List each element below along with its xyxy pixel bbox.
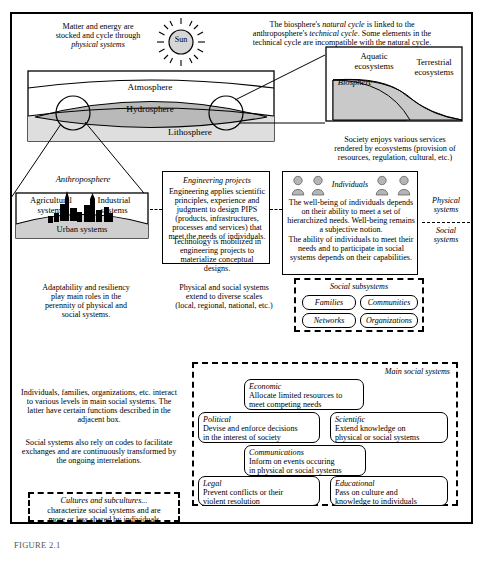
label-hydrosphere: Hydrosphere [105, 104, 195, 114]
note-ecosystem-services: Society enjoys various services rendered… [320, 135, 470, 162]
system-communications-name: Communications [249, 448, 304, 457]
physical-systems-graphic: Atmosphere Hydrosphere Lithosphere [27, 70, 275, 145]
label-anthroposphere: Anthroposphere [38, 175, 128, 185]
system-political: Political Devise and enforce decisions i… [198, 412, 320, 443]
note-interactions: Individuals, families, organizations, et… [18, 388, 180, 424]
system-legal: Legal Prevent conflicts or their violent… [198, 476, 320, 506]
subsystem-networks-label: Networks [303, 316, 355, 325]
label-terrestrial-ecosystems: Terrestrialecosystems [405, 58, 463, 77]
subsystem-families: Families [302, 295, 356, 310]
note-matter-energy-line3: physical systems [71, 40, 125, 49]
system-educational: Educational Pass on culture and knowledg… [330, 476, 448, 506]
anthroposphere-graphic: Anthroposphere Agriculturalsystems Indus… [14, 167, 150, 240]
system-political-desc2: in the interest of society [203, 433, 281, 442]
note-matter-energy-line1: Matter and energy are [62, 22, 133, 31]
cultures-title: Cultures and subcultures... [30, 496, 178, 505]
subsystem-communities-label: Communities [361, 298, 417, 307]
individuals-title: Individuals [327, 180, 373, 189]
interactions-para1: Individuals, families, organizations, et… [21, 388, 177, 424]
system-economic-desc1: Allocate limited resources to [249, 391, 342, 400]
label-agricultural-systems: Agriculturalsystems [20, 196, 82, 215]
sun-label: Sun [155, 35, 207, 44]
individuals-para2: The ability of individuals to meet their… [287, 235, 415, 262]
social-subsystems-title: Social subsystems [296, 282, 422, 291]
note-cycle-line1: The biosphere's natural cycle is linked … [269, 20, 414, 29]
note-matter-energy-line2: stocked and cycle through [56, 31, 141, 40]
system-scientific: Scientific Extend knowledge on physical … [330, 412, 448, 443]
individuals-box: Individuals The well-being of individual… [282, 171, 418, 275]
system-legal-desc2: violent resolution [203, 497, 260, 506]
scales-line3: (local, regional, national, etc.) [175, 301, 272, 310]
main-social-systems-box: Main social systems Economic Allocate li… [192, 362, 458, 506]
scales-line1: Physical and social systems [179, 283, 269, 292]
services-line3: resources, regulation, cultural, etc.) [338, 153, 452, 162]
cultures-desc-line1: characterize social systems and are [47, 506, 160, 515]
sun-graphic: Sun [155, 18, 207, 66]
subsystem-families-label: Families [303, 298, 355, 307]
biosphere-graphic: Biosphere Aquaticecosystems Terrestriale… [325, 46, 463, 122]
connector-anthro-engineering [150, 209, 162, 210]
note-adaptability: Adaptability and resiliency play main ro… [22, 283, 150, 319]
system-educational-desc2: knowledge to individuals [335, 497, 417, 506]
cultures-box: Cultures and subcultures... characterize… [28, 492, 180, 522]
adaptability-line1: Adaptability and resiliency [42, 283, 130, 292]
subsystem-networks: Networks [302, 313, 356, 328]
cultures-desc: characterize social systems and are more… [30, 506, 178, 524]
label-aquatic-ecosystems: Aquaticecosystems [343, 52, 405, 71]
main-social-systems-title: Main social systems [342, 367, 450, 376]
figure-caption: FIGURE 2.1 [14, 540, 60, 550]
individuals-para1: The well-being of individuals depends on… [287, 198, 415, 234]
system-scientific-desc1: Extend knowledge on [335, 424, 406, 433]
system-scientific-name: Scientific [335, 415, 365, 424]
note-matter-energy: Matter and energy are stocked and cycle … [28, 22, 168, 49]
cultures-desc-line2: more or less shared by individuals [49, 515, 160, 524]
interactions-para2: Social systems also rely on codes to fac… [22, 438, 176, 465]
system-communications: Communications Inform on events occuring… [244, 445, 366, 476]
figure-root: Matter and energy are stocked and cycle … [0, 0, 485, 568]
system-educational-desc1: Pass on culture and [335, 488, 398, 497]
connector-engineering-individuals [270, 209, 282, 210]
label-biosphere: Biosphere [327, 78, 383, 88]
divider-physical-social [422, 222, 470, 223]
label-social-systems-side: Socialsystems [424, 226, 468, 245]
label-industrial-systems: Industrialsystems [84, 196, 144, 215]
system-economic-desc2: meet competing needs [249, 400, 321, 409]
system-political-desc1: Devise and enforce decisions [203, 424, 298, 433]
system-scientific-desc2: physical or social systems [335, 433, 419, 442]
system-communications-desc2: in physical or social systems [249, 466, 342, 475]
adaptability-line4: social systems. [62, 310, 111, 319]
subsystem-organizations-label: Organizations [361, 316, 417, 325]
subsystem-organizations: Organizations [360, 313, 418, 328]
system-political-name: Political [203, 415, 231, 424]
services-line2: rendered by ecosystems (provision of [334, 144, 455, 153]
scales-line2: extend to diverse scales [186, 292, 263, 301]
adaptability-line3: perennity of physical and [45, 301, 127, 310]
system-communications-desc1: Inform on events occuring [249, 457, 335, 466]
adaptability-line2: play main roles in the [51, 292, 121, 301]
subsystem-communities: Communities [360, 295, 418, 310]
services-line1: Society enjoys various services [344, 135, 445, 144]
engineering-title: Engineering projects [163, 176, 271, 185]
system-educational-name: Educational [335, 479, 375, 488]
note-biosphere-cycle: The biosphere's natural cycle is linked … [218, 20, 466, 47]
label-physical-systems-side: Physicalsystems [424, 196, 468, 215]
label-lithosphere: Lithosphere [145, 127, 235, 137]
label-urban-systems: Urban systems [42, 225, 122, 235]
social-subsystems-box: Social subsystems Families Communities N… [294, 278, 424, 332]
engineering-para1: Engineering applies scientific principle… [167, 187, 267, 241]
engineering-projects-box: Engineering projects Engineering applies… [162, 171, 270, 264]
system-economic: Economic Allocate limited resources to m… [244, 379, 364, 410]
note-cycle-line2: anthroposphere's technical cycle. Some e… [253, 29, 431, 38]
label-atmosphere: Atmosphere [105, 82, 195, 92]
system-legal-name: Legal [203, 479, 221, 488]
system-legal-desc1: Prevent conflicts or their [203, 488, 283, 497]
note-scales: Physical and social systems extend to di… [156, 283, 292, 310]
system-economic-name: Economic [249, 382, 281, 391]
engineering-para2: Technology is mobilized in engineering p… [167, 237, 267, 273]
note-codes: Social systems also rely on codes to fac… [18, 438, 180, 465]
